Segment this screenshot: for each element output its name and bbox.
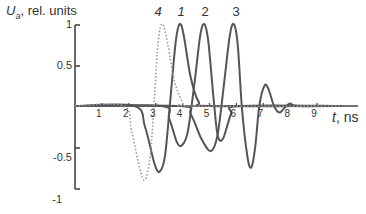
x-tick-label: 6: [231, 108, 237, 119]
x-tick-label: 2: [123, 108, 129, 119]
curve-label-1: 1: [177, 4, 184, 19]
x-tick-label: 3: [150, 108, 156, 119]
x-tick-label: 7: [258, 108, 264, 119]
curve-label-4: 4: [154, 4, 161, 19]
x-axis-label: t, ns: [332, 109, 358, 125]
curve-label-3: 3: [232, 4, 239, 19]
x-tick-label: 5: [204, 108, 210, 119]
x-tick-label: 9: [311, 108, 317, 119]
curve-2: [75, 24, 344, 146]
curves: [75, 24, 344, 180]
x-tick-label: 8: [284, 108, 290, 119]
y-tick-minus-0.5: -0.5: [42, 151, 72, 163]
x-tick-label: 1: [96, 108, 102, 119]
y-tick-minus-1: -1: [32, 193, 62, 205]
chart-plot-area: [0, 0, 366, 214]
curve-label-2: 2: [201, 4, 208, 19]
x-tick-label: 4: [177, 108, 183, 119]
y-tick-0.5: 0.5: [42, 59, 72, 71]
y-tick-1: 1: [42, 18, 72, 30]
